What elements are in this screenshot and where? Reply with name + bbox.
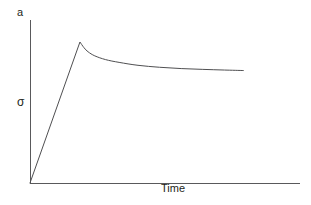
stress-relaxation-curve (30, 42, 243, 183)
y-axis-label: σ (17, 96, 24, 108)
plot-area (0, 0, 311, 205)
panel-label: a (17, 7, 23, 18)
x-axis-label: Time (161, 183, 185, 194)
figure-panel: a σ Time (0, 0, 311, 205)
